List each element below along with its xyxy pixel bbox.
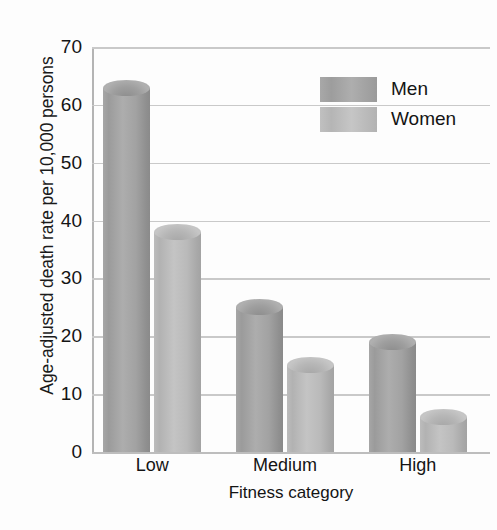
bar-cap-ellipse bbox=[103, 80, 150, 96]
bar-medium-women bbox=[287, 357, 334, 452]
legend-swatch-women bbox=[320, 107, 377, 132]
gridline: 0 bbox=[92, 452, 490, 454]
gridline: 40 bbox=[92, 221, 490, 223]
y-axis-tick-label: 30 bbox=[61, 267, 82, 289]
y-axis-tick-label: 20 bbox=[61, 325, 82, 347]
bar-body bbox=[287, 365, 334, 452]
x-axis-label-low: Low bbox=[136, 455, 169, 476]
bar-body bbox=[236, 307, 283, 452]
bar-high-women bbox=[420, 409, 467, 452]
gridline: 50 bbox=[92, 163, 490, 165]
bar-cap-ellipse bbox=[369, 334, 416, 350]
legend-item-women: Women bbox=[320, 104, 456, 134]
y-axis-tick-label: 70 bbox=[61, 36, 82, 58]
legend-item-men: Men bbox=[320, 74, 456, 104]
x-axis-title: Fitness category bbox=[92, 483, 490, 503]
gridline: 30 bbox=[92, 278, 490, 280]
bar-medium-men bbox=[236, 299, 283, 452]
y-axis-tick-label: 40 bbox=[61, 210, 82, 232]
bar-chart: Age-adjusted death rate per 10,000 perso… bbox=[0, 0, 497, 530]
bar-low-women bbox=[154, 224, 201, 452]
bar-body bbox=[369, 342, 416, 452]
y-axis-tick-label: 50 bbox=[61, 152, 82, 174]
y-axis-tick-label: 0 bbox=[71, 441, 82, 463]
legend: MenWomen bbox=[320, 74, 456, 134]
y-axis-tick-label: 60 bbox=[61, 94, 82, 116]
y-axis-tick-label: 10 bbox=[61, 383, 82, 405]
bar-low-men bbox=[103, 80, 150, 453]
legend-label: Men bbox=[391, 78, 428, 100]
x-axis-label-high: High bbox=[399, 455, 436, 476]
legend-swatch-men bbox=[320, 77, 377, 102]
gridline: 70 bbox=[92, 47, 490, 49]
gridline: 20 bbox=[92, 336, 490, 338]
y-axis-title: Age-adjusted death rate per 10,000 perso… bbox=[37, 16, 58, 436]
legend-label: Women bbox=[391, 108, 456, 130]
bar-body bbox=[103, 88, 150, 453]
bar-body bbox=[154, 232, 201, 452]
bar-high-men bbox=[369, 334, 416, 452]
x-axis-label-medium: Medium bbox=[253, 455, 317, 476]
